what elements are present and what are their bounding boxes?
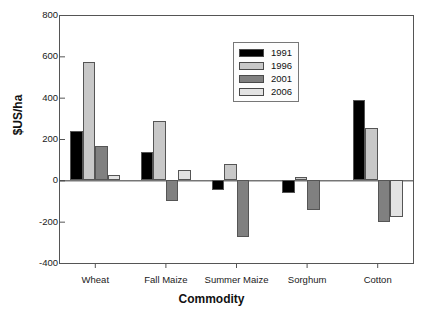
legend-item: 1991 xyxy=(239,47,292,58)
legend-swatch-1991 xyxy=(239,49,264,57)
x-axis-tick-labels: WheatFall MaizeSummer MaizeSorghumCotton xyxy=(0,0,423,318)
x-tick-label: Cotton xyxy=(364,274,392,285)
x-tick-label: Wheat xyxy=(82,274,109,285)
y-axis-title: $US/ha xyxy=(11,70,25,160)
legend-label-1996: 1996 xyxy=(271,61,292,71)
legend-label-1991: 1991 xyxy=(271,48,292,58)
legend-swatch-2001 xyxy=(239,75,264,83)
x-tick-label: Summer Maize xyxy=(205,274,269,285)
x-tick-label: Fall Maize xyxy=(144,274,187,285)
legend-label-2006: 2006 xyxy=(271,87,292,97)
legend-item: 2001 xyxy=(239,73,292,84)
x-axis-title: Commodity xyxy=(0,292,423,306)
x-tick-label: Sorghum xyxy=(288,274,327,285)
legend-item: 2006 xyxy=(239,86,292,97)
legend-label-2001: 2001 xyxy=(271,74,292,84)
legend: 1991 1996 2001 2006 xyxy=(233,42,299,102)
legend-swatch-1996 xyxy=(239,62,264,70)
legend-item: 1996 xyxy=(239,60,292,71)
bar-chart: 8006004002000-200-400 WheatFall MaizeSum… xyxy=(0,0,423,318)
legend-swatch-2006 xyxy=(239,88,264,96)
